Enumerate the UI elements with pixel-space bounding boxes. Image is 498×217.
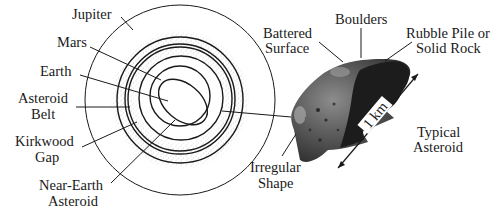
label-battered-2: Surface [265,40,309,56]
label-mars: Mars [57,34,87,50]
label-near-earth-asteroid-1: Near-Earth [39,177,104,193]
label-kirkwood-gap-1: Kirkwood [15,133,75,149]
label-irregular-1: Irregular [250,159,301,175]
label-earth: Earth [40,63,72,79]
label-near-earth-asteroid-2: Asteroid [48,193,99,209]
asteroid-image [291,59,410,162]
label-jupiter: Jupiter [72,6,112,22]
label-kirkwood-gap-2: Gap [35,149,59,165]
asteroid-diagram: Jupiter Mars Earth Asteroid Belt Kirkwoo… [0,0,498,217]
label-irregular-2: Shape [258,175,293,191]
label-battered-1: Battered [263,25,313,41]
label-boulders: Boulders [335,11,388,27]
label-typical-2: Asteroid [413,139,464,155]
label-asteroid-belt-2: Belt [31,106,55,122]
label-rubble-1: Rubble Pile or [406,25,490,41]
label-rubble-2: Solid Rock [416,40,482,56]
label-asteroid-belt-1: Asteroid [18,90,69,106]
orbit-system [76,5,275,195]
label-typical-1: Typical [417,124,460,140]
